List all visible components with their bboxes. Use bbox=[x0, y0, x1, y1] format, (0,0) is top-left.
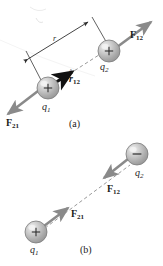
force-arrow-f21-b bbox=[44, 208, 68, 226]
label-q2-b: q2 bbox=[135, 168, 144, 180]
distance-dimension-arrow-a bbox=[28, 22, 88, 59]
panel-b: F12 F21 q1 q2 (b) bbox=[0, 133, 163, 266]
label-f12-b: F12 bbox=[107, 184, 120, 196]
label-f21-a: F21 bbox=[6, 118, 19, 130]
force-arrow-f21-a bbox=[8, 91, 38, 114]
label-f21-b: F21 bbox=[71, 209, 84, 221]
caption-panel-b: (b) bbox=[80, 245, 92, 255]
panel-a-graphic bbox=[0, 0, 163, 133]
panel-a: F12 F21 q1 q2 ^r12 r (a) bbox=[0, 0, 163, 133]
physics-figure: F12 F21 q1 q2 ^r12 r (a) bbox=[0, 0, 163, 266]
label-f12-a: F12 bbox=[130, 30, 143, 42]
label-q2-a: q2 bbox=[100, 62, 109, 74]
label-unit-vector-r12-a: ^r12 bbox=[69, 74, 80, 86]
caption-panel-a: (a) bbox=[69, 119, 80, 129]
separation-dashed-line-b bbox=[45, 165, 130, 228]
label-q1-a: q1 bbox=[42, 102, 51, 114]
label-q1-b: q1 bbox=[30, 245, 39, 257]
label-distance-r-a: r bbox=[53, 35, 56, 43]
